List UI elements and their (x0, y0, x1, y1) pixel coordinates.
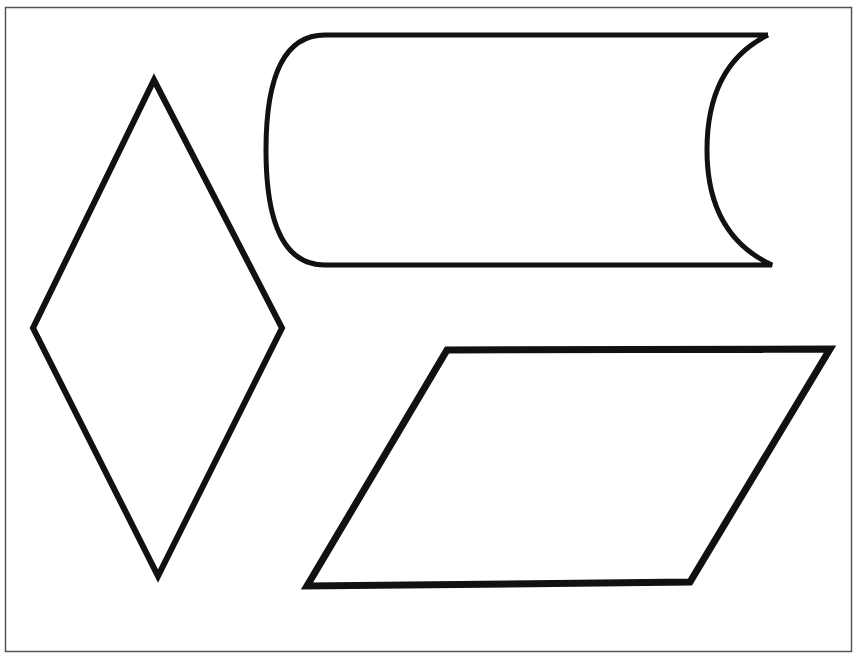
stored-data-cylinder-shape (266, 35, 772, 265)
diagram-canvas (0, 0, 859, 655)
